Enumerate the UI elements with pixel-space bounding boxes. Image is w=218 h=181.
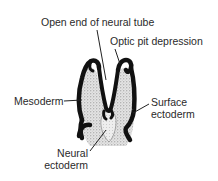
label-mesoderm: Mesoderm (14, 95, 64, 107)
label-optic-pit: Optic pit depression (110, 35, 203, 47)
neural-tube-diagram: Open end of neural tube Optic pit depres… (0, 0, 218, 181)
label-neural-ectoderm-line2: ectoderm (44, 159, 88, 171)
label-surface-ectoderm-line2: ectoderm (151, 108, 195, 120)
label-open-end: Open end of neural tube (41, 16, 154, 28)
diagram-canvas: Open end of neural tube Optic pit depres… (0, 0, 218, 181)
label-surface-ectoderm-line1: Surface (151, 96, 187, 108)
leader-optic-pit (115, 49, 120, 64)
label-neural-ectoderm-line1: Neural (57, 147, 88, 159)
